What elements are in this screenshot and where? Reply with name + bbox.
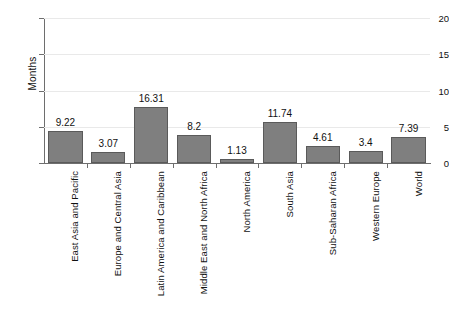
y-axis-title: Months xyxy=(27,44,38,104)
gridline xyxy=(44,127,430,128)
bar-value-label: 3.07 xyxy=(99,138,118,149)
category-label: Latin America and Caribbean xyxy=(155,171,166,296)
category-label: East Asia and Pacific xyxy=(69,171,80,262)
bar xyxy=(91,152,125,163)
x-tick-mark xyxy=(344,164,345,168)
category-label: World xyxy=(413,171,424,196)
gridline xyxy=(44,91,430,92)
bar-value-label: 16.31 xyxy=(139,93,164,104)
bar xyxy=(48,131,82,163)
x-tick-mark xyxy=(216,164,217,168)
x-tick-mark xyxy=(387,164,388,168)
x-tick-mark xyxy=(130,164,131,168)
bar-chart-figure: Months 05101520 9.223.0716.318.21.1311.7… xyxy=(0,0,449,330)
bar xyxy=(220,159,254,163)
bar xyxy=(134,107,168,163)
gridline xyxy=(44,18,430,19)
bar-value-label: 3.4 xyxy=(359,137,373,148)
bar-value-label: 7.39 xyxy=(399,123,418,134)
category-label: Europe and Central Asia xyxy=(112,171,123,276)
bar xyxy=(306,146,340,163)
category-label: North America xyxy=(241,171,252,233)
x-tick-mark xyxy=(301,164,302,168)
bar-value-label: 8.2 xyxy=(187,121,201,132)
x-tick-mark xyxy=(87,164,88,168)
x-tick-mark xyxy=(173,164,174,168)
bar-value-label: 11.74 xyxy=(268,108,292,119)
bar xyxy=(263,122,297,163)
bar xyxy=(391,137,425,163)
category-label: Middle East and North Africa xyxy=(198,171,209,294)
bar-value-label: 4.61 xyxy=(313,132,332,143)
bar xyxy=(177,135,211,163)
x-tick-mark xyxy=(258,164,259,168)
category-label: South Asia xyxy=(284,171,295,217)
category-label: Western Europe xyxy=(370,171,381,241)
category-label: Sub-Saharan Africa xyxy=(327,171,338,255)
bar-value-label: 1.13 xyxy=(227,145,246,156)
bar xyxy=(349,151,383,163)
bar-value-label: 9.22 xyxy=(56,117,75,128)
x-axis-line xyxy=(44,163,431,164)
y-tick-mark xyxy=(39,163,44,164)
gridline xyxy=(44,54,430,55)
